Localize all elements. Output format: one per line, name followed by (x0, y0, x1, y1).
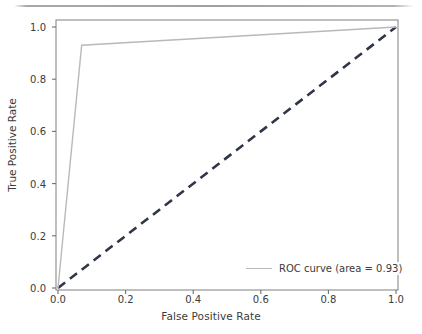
x-tick-label: 1.0 (388, 294, 404, 305)
roc-curve-figure: True Positive Rate False Positive Rate 0… (0, 0, 422, 334)
roc-plot-canvas (0, 0, 422, 334)
y-axis-label-container: True Positive Rate (0, 0, 24, 290)
y-tick-label: 0.4 (20, 178, 46, 189)
x-tick-label: 0.2 (118, 294, 134, 305)
legend-line-swatch-roc (246, 268, 272, 269)
x-tick-label: 0.4 (185, 294, 201, 305)
y-tick-label: 0.8 (20, 74, 46, 85)
y-axis-label: True Positive Rate (6, 98, 18, 192)
chart-legend: ROC curve (area = 0.93) (243, 262, 405, 275)
y-tick-label: 1.0 (20, 22, 46, 33)
y-tick-label: 0.2 (20, 230, 46, 241)
x-tick-label: 0.0 (50, 294, 66, 305)
x-tick-label: 0.6 (253, 294, 269, 305)
y-tick-label: 0.6 (20, 126, 46, 137)
legend-label-roc: ROC curve (area = 0.93) (279, 263, 402, 274)
x-axis-label: False Positive Rate (0, 310, 422, 322)
chance-diagonal-line (58, 27, 396, 288)
x-tick-label: 0.8 (320, 294, 336, 305)
y-tick-label: 0.0 (20, 283, 46, 294)
